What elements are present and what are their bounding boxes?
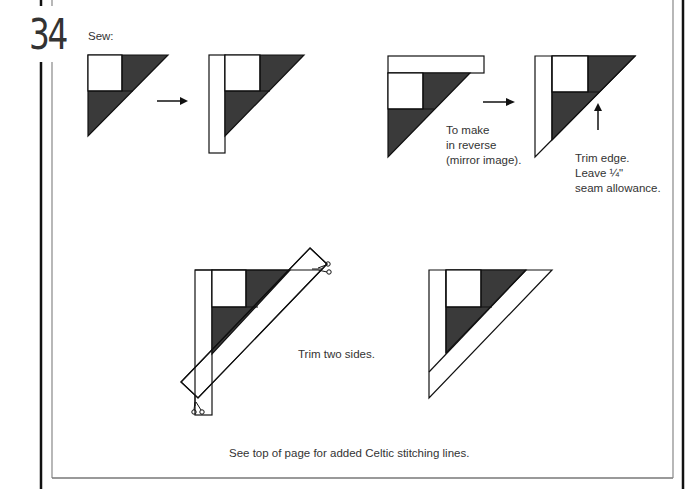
triangle-unit-reverse-trimmed: [535, 56, 635, 157]
piecing-diagrams: [0, 0, 692, 489]
arrow-right-icon: [157, 97, 188, 105]
trim-edge-note: Trim edge. Leave ¼" seam allowance.: [575, 151, 661, 196]
triangle-unit-basic: [88, 55, 168, 136]
arrow-right-icon: [483, 98, 515, 106]
reverse-note: To make in reverse (mirror image).: [446, 123, 521, 168]
triangle-unit-finished: [429, 270, 552, 398]
triangle-unit-trim-two-sides: [181, 248, 327, 415]
footer-note: See top of page for added Celtic stitchi…: [229, 446, 469, 461]
arrow-up-icon: [594, 103, 602, 130]
triangle-unit-with-strip: [209, 55, 304, 153]
trim-two-sides-note: Trim two sides.: [298, 347, 375, 362]
